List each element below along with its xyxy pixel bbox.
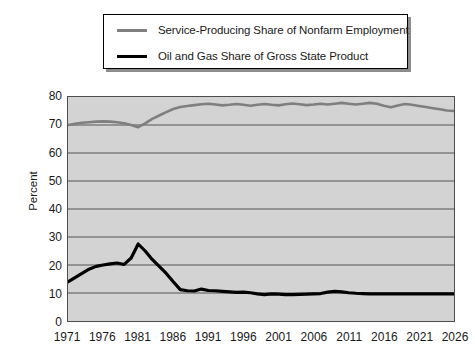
legend-label-oil-and-gas: Oil and Gas Share of Gross State Product bbox=[158, 50, 368, 62]
x-tick-label: 2021 bbox=[392, 330, 448, 344]
x-tick-label: 2011 bbox=[321, 330, 377, 344]
x-tick-label: 2006 bbox=[286, 330, 342, 344]
series-line bbox=[68, 244, 454, 295]
x-tick-label: 2016 bbox=[356, 330, 412, 344]
y-axis-label: Percent bbox=[27, 151, 39, 231]
y-tick-label: 70 bbox=[2, 117, 62, 131]
chart-legend: Service-Producing Share of Nonfarm Emplo… bbox=[103, 14, 408, 69]
series-line bbox=[68, 103, 454, 127]
plot-svg bbox=[68, 97, 454, 321]
x-tick-label: 1981 bbox=[110, 330, 166, 344]
x-tick-label: 1976 bbox=[74, 330, 130, 344]
y-tick-label: 0 bbox=[2, 315, 62, 329]
y-tick-label: 10 bbox=[2, 287, 62, 301]
x-tick-label: 2001 bbox=[251, 330, 307, 344]
x-tick-label: 2026 bbox=[427, 330, 475, 344]
y-tick-label: 80 bbox=[2, 89, 62, 103]
series-lines bbox=[68, 103, 454, 295]
x-tick-label: 1986 bbox=[145, 330, 201, 344]
line-chart-figure: Service-Producing Share of Nonfarm Emplo… bbox=[0, 0, 475, 363]
plot-area bbox=[67, 96, 455, 322]
x-tick-label: 1991 bbox=[180, 330, 236, 344]
legend-line-swatch-gray bbox=[117, 29, 147, 32]
y-tick-label: 30 bbox=[2, 230, 62, 244]
legend-entry-service-producing: Service-Producing Share of Nonfarm Emplo… bbox=[104, 17, 407, 43]
x-tick-label: 1996 bbox=[215, 330, 271, 344]
x-tick-label: 1971 bbox=[39, 330, 95, 344]
legend-entry-oil-and-gas: Oil and Gas Share of Gross State Product bbox=[104, 43, 407, 69]
legend-label-service-producing: Service-Producing Share of Nonfarm Emplo… bbox=[158, 24, 409, 36]
y-tick-label: 20 bbox=[2, 259, 62, 273]
gridlines bbox=[68, 125, 454, 293]
legend-line-swatch-black bbox=[117, 55, 147, 58]
